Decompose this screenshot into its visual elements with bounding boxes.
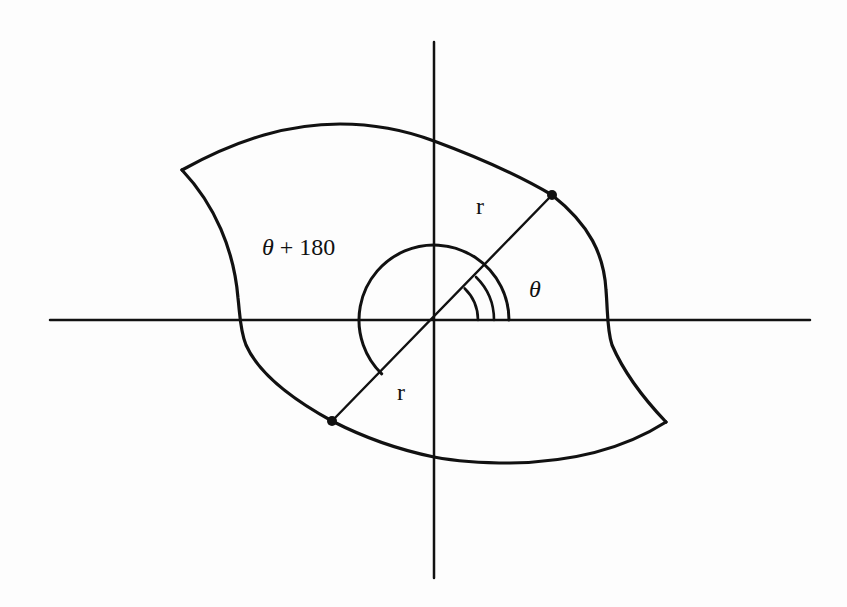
label-r-upper: r	[476, 194, 484, 218]
region-top-boundary	[182, 124, 552, 195]
theta-angle-arc-inner	[465, 289, 478, 321]
point-r-theta	[547, 190, 557, 200]
point-r-theta-plus-180	[327, 416, 337, 426]
region-left-boundary	[182, 170, 332, 421]
diagram-canvas	[0, 0, 847, 607]
label-r-lower: r	[397, 380, 405, 404]
label-theta: θ	[529, 277, 541, 301]
label-theta-plus-180-rest: + 180	[274, 234, 336, 260]
region-bottom-boundary	[332, 421, 666, 463]
label-theta-plus-180-theta: θ	[262, 234, 274, 260]
region-right-boundary	[552, 195, 666, 422]
label-theta-plus-180: θ + 180	[262, 235, 335, 259]
radius-line	[332, 195, 552, 421]
polar-region-diagram: θ + 180 θ r r	[0, 0, 847, 607]
